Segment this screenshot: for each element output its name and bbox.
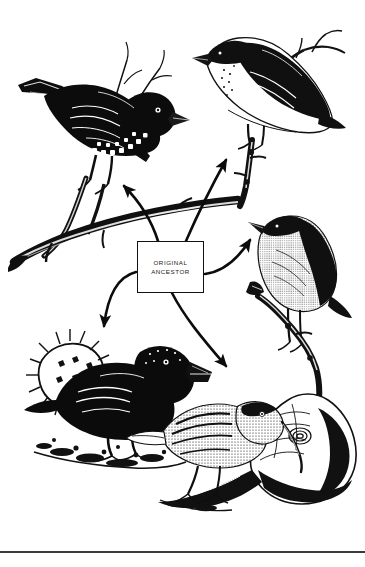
original-ancestor-line-1: ORIGINAL xyxy=(154,258,188,268)
original-ancestor-box: ORIGINAL ANCESTOR xyxy=(137,241,204,293)
finch-radiation-figure: ORIGINAL ANCESTOR xyxy=(0,0,365,567)
footer-divider xyxy=(0,551,365,553)
original-ancestor-line-2: ANCESTOR xyxy=(151,267,190,277)
